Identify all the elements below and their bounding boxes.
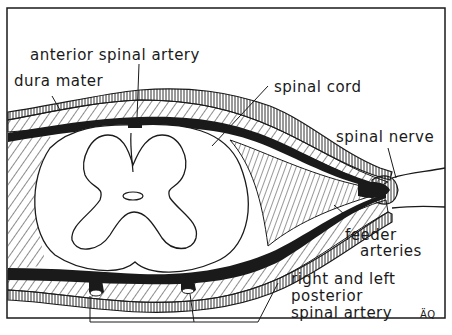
central-canal — [123, 192, 143, 200]
artist-initials: ÄQ — [420, 308, 436, 320]
label-posterior-line3: spinal artery — [291, 304, 392, 322]
label-dura-mater: dura mater — [14, 72, 104, 90]
anterior-spinal-artery — [128, 118, 142, 128]
label-posterior-line1: right and left — [291, 270, 395, 288]
label-spinal-cord: spinal cord — [274, 78, 362, 96]
label-spinal-nerve: spinal nerve — [336, 128, 434, 146]
label-anterior-spinal-artery: anterior spinal artery — [30, 46, 200, 64]
label-feeder-arteries-line2: arteries — [360, 242, 422, 260]
spinal-cord-diagram: anterior spinal artery dura mater spinal… — [0, 0, 452, 335]
spinal-nerve-upper-edge — [392, 168, 445, 178]
spinal-nerve-lower-edge — [392, 206, 445, 208]
posterior-spinal-artery-right-lumen — [182, 289, 194, 294]
label-posterior-line2: posterior — [291, 287, 363, 305]
posterior-spinal-artery-left-lumen — [90, 290, 102, 296]
